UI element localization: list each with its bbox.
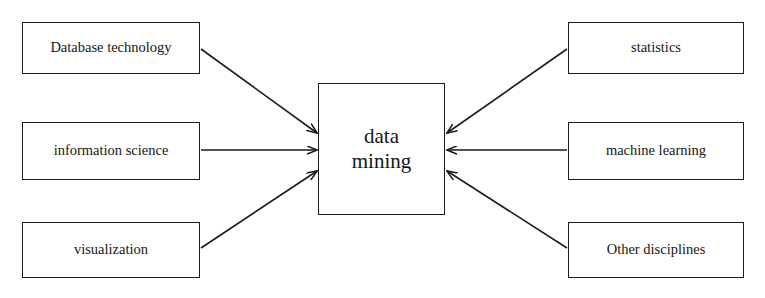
node-label: machine learning — [606, 142, 706, 159]
node-data-mining[interactable]: data mining — [318, 83, 445, 215]
node-information-science[interactable]: information science — [22, 122, 200, 180]
node-statistics[interactable]: statistics — [568, 22, 744, 74]
node-database-technology[interactable]: Database technology — [22, 22, 200, 74]
node-label: Database technology — [50, 39, 171, 56]
node-label: Other disciplines — [607, 241, 706, 258]
node-other-disciplines[interactable]: Other disciplines — [568, 222, 744, 278]
edge-statistics — [447, 49, 567, 133]
edge-database-technology — [201, 49, 317, 133]
node-label: statistics — [631, 39, 681, 56]
node-label: information science — [54, 142, 169, 159]
diagram-canvas: Database technology information science … — [0, 0, 765, 298]
edge-other-disciplines — [447, 171, 567, 248]
edge-visualization — [201, 171, 317, 248]
node-label-line-1: data — [364, 124, 399, 149]
node-visualization[interactable]: visualization — [22, 222, 200, 278]
node-machine-learning[interactable]: machine learning — [568, 122, 744, 180]
node-label-line-2: mining — [352, 149, 412, 174]
node-label: visualization — [74, 241, 148, 258]
